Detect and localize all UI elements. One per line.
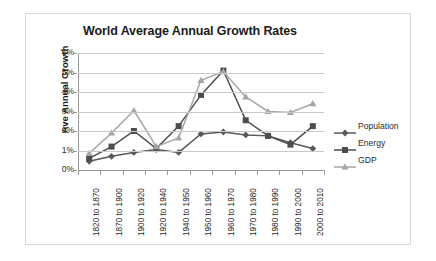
y-axis-title-container: Ave Annual Growth [33, 58, 47, 168]
x-axis-tick-label: 2000 to 2010 [316, 188, 325, 236]
gridline [78, 112, 324, 113]
legend-label: GDP [358, 155, 377, 165]
x-axis-tick-mark [167, 171, 168, 175]
x-axis-tick-label: 1920 to 1940 [159, 188, 168, 236]
x-axis-tick-mark [190, 171, 191, 175]
data-point-marker [109, 144, 115, 150]
x-axis-tick-label: 1980 to 1990 [271, 188, 280, 236]
plot-area [78, 53, 324, 170]
data-point-marker [176, 123, 182, 129]
x-axis-tick-labels: 1820 to 18701870 to 19001900 to 19201920… [78, 178, 325, 240]
y-axis-tick-label: 3% [48, 106, 74, 116]
data-point-marker [86, 155, 92, 161]
data-point-marker [342, 130, 349, 137]
gridline [78, 151, 324, 152]
data-point-marker [287, 142, 293, 148]
y-axis-tick-label: 5% [48, 67, 74, 77]
legend-item-energy[interactable]: Energy [334, 137, 414, 154]
series-population [86, 129, 316, 165]
legend-item-population[interactable]: Population [334, 120, 414, 137]
x-axis-tick-label: 1970 to 1980 [249, 188, 258, 236]
y-axis-tick-label: 2% [48, 125, 74, 135]
data-point-marker [265, 133, 271, 139]
data-point-marker [242, 132, 249, 139]
chart-legend: PopulationEnergyGDP [334, 120, 414, 171]
y-axis-tick-label: 0% [48, 164, 74, 174]
data-point-marker [342, 147, 348, 153]
x-axis-tick-mark [235, 171, 236, 175]
gridline [78, 92, 324, 93]
x-axis-tick-mark [78, 171, 79, 175]
legend-marker-triangle-icon [334, 158, 356, 168]
gridline [78, 73, 324, 74]
x-axis-tick-label: 1870 to 1900 [115, 188, 124, 236]
legend-label: Energy [358, 138, 385, 148]
y-axis-tick-label: 1% [48, 145, 74, 155]
x-axis-tick-mark [302, 171, 303, 175]
x-axis-tick-label: 1960 to 1970 [227, 188, 236, 236]
legend-label: Population [358, 121, 399, 131]
x-axis-tick-label: 1950 to 1960 [204, 188, 213, 236]
x-axis-tick-mark [324, 171, 325, 175]
y-axis-tick-label: 4% [48, 86, 74, 96]
x-axis-tick-mark [123, 171, 124, 175]
y-axis-tick-mark [74, 73, 77, 74]
x-axis-tick-mark [100, 171, 101, 175]
x-axis-tick-mark [145, 171, 146, 175]
x-axis-tick-label: 1820 to 1870 [92, 188, 101, 236]
y-axis-tick-labels: 0%1%2%3%4%5%6% [48, 53, 74, 171]
y-axis-tick-mark [74, 151, 77, 152]
legend-marker-diamond-icon [334, 124, 356, 134]
x-axis-tick-label: 1940 to 1950 [182, 188, 191, 236]
x-axis-tick-mark [279, 171, 280, 175]
y-axis-tick-mark [74, 92, 77, 93]
data-point-marker [175, 134, 182, 140]
y-axis-tick-label: 6% [48, 47, 74, 57]
data-point-marker [309, 100, 316, 106]
y-axis-tick-mark [74, 131, 77, 132]
x-axis-tick-label: 1990 to 2000 [294, 188, 303, 236]
y-axis-tick-mark [74, 53, 77, 54]
x-axis-tick-mark [257, 171, 258, 175]
x-axis-tick-label: 1900 to 1920 [137, 188, 146, 236]
gridline [78, 131, 324, 132]
data-point-marker [108, 153, 115, 160]
y-axis-tick-mark [74, 170, 77, 171]
data-point-marker [310, 123, 316, 129]
data-point-marker [243, 117, 249, 123]
series-line [89, 71, 313, 159]
x-axis-tick-marks [78, 171, 325, 176]
y-axis-tick-mark [74, 112, 77, 113]
x-axis-tick-mark [212, 171, 213, 175]
chart-title: World Average Annual Growth Rates [40, 24, 340, 38]
legend-marker-square-icon [334, 141, 356, 151]
legend-item-gdp[interactable]: GDP [334, 154, 414, 171]
gridline [78, 53, 324, 54]
